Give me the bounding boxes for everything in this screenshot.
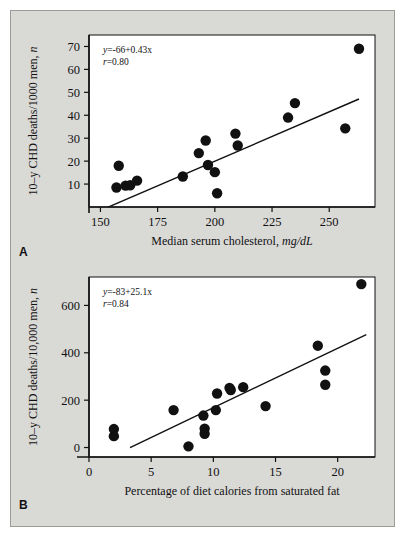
data-point <box>178 171 188 181</box>
scatter-plot-b: 020040060005101520y=-83+25.1xr=0.84Perce… <box>11 267 396 517</box>
data-point <box>230 128 240 138</box>
x-tick-label: 150 <box>91 215 110 229</box>
data-point <box>114 161 124 171</box>
regression-equation-label: y=-83+25.1x <box>102 287 152 297</box>
x-tick-label: 5 <box>148 465 154 479</box>
correlation-label: r=0.80 <box>103 57 129 67</box>
plot-area-background <box>89 277 375 457</box>
data-point <box>260 401 270 411</box>
y-axis-title: 10–y CHD deaths/10,000 men, n <box>26 288 40 446</box>
figure-container: 10203040506070150175200225250y=-66+0.43x… <box>10 10 395 527</box>
data-point <box>226 385 236 395</box>
data-point <box>313 340 323 350</box>
y-tick-label: 10 <box>68 178 81 192</box>
correlation-label: r=0.84 <box>103 299 129 309</box>
y-tick-label: 60 <box>68 63 81 77</box>
data-point <box>233 140 243 150</box>
data-point <box>354 44 364 54</box>
x-tick-label: 175 <box>148 215 167 229</box>
data-point <box>283 112 293 122</box>
data-point <box>356 279 366 289</box>
data-point <box>194 148 204 158</box>
y-tick-label: 400 <box>61 346 80 360</box>
data-point <box>111 182 121 192</box>
data-point <box>290 98 300 108</box>
data-point <box>198 410 208 420</box>
data-point <box>340 123 350 133</box>
y-axis-title-group: 10–y CHD deaths/10,000 men, n <box>26 288 40 446</box>
data-point <box>238 382 248 392</box>
x-tick-label: 225 <box>263 215 282 229</box>
y-tick-label: 70 <box>68 40 81 54</box>
y-tick-label: 600 <box>61 299 80 313</box>
data-point <box>211 405 221 415</box>
x-tick-label: 0 <box>86 465 92 479</box>
x-tick-label: 20 <box>331 465 344 479</box>
y-axis-title-group: 10–y CHD deaths/1000 men, n <box>26 47 40 196</box>
panel-letter-a: A <box>19 245 28 259</box>
x-tick-label: 15 <box>269 465 282 479</box>
y-tick-label: 200 <box>61 394 80 408</box>
x-tick-label: 250 <box>320 215 339 229</box>
data-point <box>320 380 330 390</box>
data-point <box>168 405 178 415</box>
data-point <box>210 167 220 177</box>
y-tick-label: 20 <box>68 155 81 169</box>
y-tick-label: 40 <box>68 109 81 123</box>
x-axis-title: Percentage of diet calories from saturat… <box>124 484 340 498</box>
x-tick-label: 200 <box>205 215 224 229</box>
chart-panel-b: 020040060005101520y=-83+25.1xr=0.84Perce… <box>11 267 394 522</box>
regression-equation-label: y=-66+0.43x <box>102 45 152 55</box>
data-point <box>183 441 193 451</box>
data-point <box>212 388 222 398</box>
panel-letter-b: B <box>19 498 28 512</box>
chart-panel-a: 10203040506070150175200225250y=-66+0.43x… <box>11 17 394 267</box>
data-point <box>200 135 210 145</box>
y-tick-label: 30 <box>68 132 81 146</box>
x-tick-label: 10 <box>207 465 220 479</box>
scatter-plot-a: 10203040506070150175200225250y=-66+0.43x… <box>11 17 396 267</box>
data-point <box>320 365 330 375</box>
y-tick-label: 0 <box>74 441 80 455</box>
x-axis-title: Median serum cholesterol, mg/dL <box>151 234 313 248</box>
y-tick-label: 50 <box>68 86 81 100</box>
data-point <box>199 429 209 439</box>
data-point <box>132 175 142 185</box>
data-point <box>212 188 222 198</box>
data-point <box>109 431 119 441</box>
y-axis-title: 10–y CHD deaths/1000 men, n <box>26 47 40 196</box>
